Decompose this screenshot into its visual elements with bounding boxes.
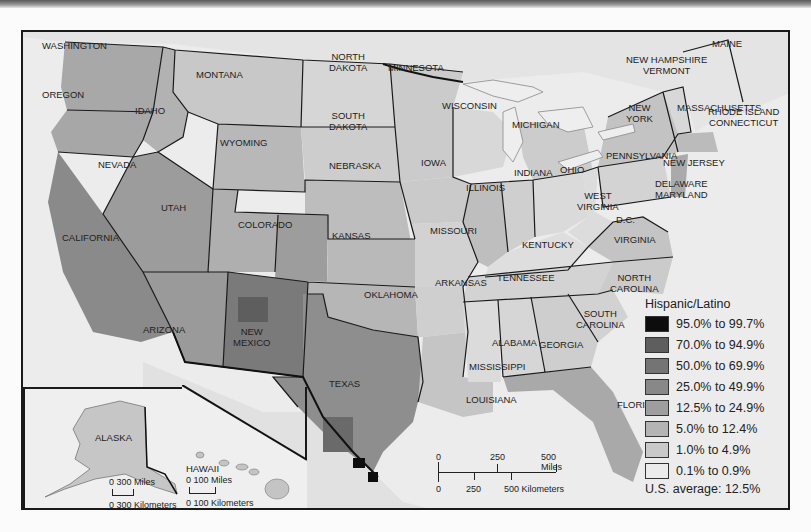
scale-tick <box>497 464 498 472</box>
state-label: ARIZONA <box>143 324 185 335</box>
state-label: NEW YORK <box>626 102 653 124</box>
state-label: SOUTH CAROLINA <box>576 308 625 330</box>
state-label: NORTH DAKOTA <box>329 51 367 73</box>
state-label: OKLAHOMA <box>364 289 418 300</box>
state-label: D.C. <box>616 214 635 225</box>
legend-label: 5.0% to 12.4% <box>676 422 757 436</box>
hawaii-scale-miles: 0 100 Miles <box>186 475 232 485</box>
state-label: DELAWARE MARYLAND <box>655 178 708 200</box>
state-label: CALIFORNIA <box>62 232 119 243</box>
scale-miles-250: 250 <box>490 452 505 462</box>
legend-label: 95.0% to 99.7% <box>676 317 764 331</box>
scale-km-250: 250 <box>466 484 481 494</box>
legend-title: Hispanic/Latino <box>645 297 790 311</box>
scale-bar: 0 250 500 Miles 0 250 500 Kilometers <box>436 452 566 502</box>
legend-swatch <box>645 463 669 479</box>
state-label: NEW MEXICO <box>233 326 270 348</box>
state-label: MISSOURI <box>430 225 477 236</box>
legend-swatch <box>645 337 669 353</box>
state-label: TENNESSEE <box>497 272 555 283</box>
scale-km-500: 500 Kilometers <box>504 484 564 494</box>
state-label: SOUTH DAKOTA <box>329 110 367 132</box>
scale-miles-0: 0 <box>436 452 441 462</box>
state-label: ARKANSAS <box>435 277 487 288</box>
legend-label: 12.5% to 24.9% <box>676 401 764 415</box>
state-label: ALABAMA <box>492 337 537 348</box>
legend-label: 0.1% to 0.9% <box>676 464 750 478</box>
state-washington <box>61 42 163 112</box>
state-label: UTAH <box>161 202 186 213</box>
state-label: OHIO <box>560 164 584 175</box>
state-label: WEST VIRGINIA <box>577 190 619 212</box>
legend-label: 70.0% to 94.9% <box>676 338 764 352</box>
legend-item: 5.0% to 12.4% <box>645 418 790 439</box>
state-label: COLORADO <box>238 219 292 230</box>
state-label: IOWA <box>421 157 446 168</box>
legend-label: 50.0% to 69.9% <box>676 359 764 373</box>
legend-swatch <box>645 442 669 458</box>
alaska-scale-km: 0 300 Kilometers <box>109 500 177 510</box>
hawaii-scale-bar <box>189 487 216 494</box>
state-label: GEORGIA <box>539 339 583 350</box>
hawaii-inset: HAWAII 0 100 Miles 0 100 Kilometers <box>182 387 307 510</box>
scale-tick <box>438 462 439 482</box>
state-label: MONTANA <box>196 69 243 80</box>
state-label: NORTH CAROLINA <box>610 272 659 294</box>
scale-tick <box>511 472 512 480</box>
state-label: NEVADA <box>98 159 136 170</box>
hawaii-scale-km: 0 100 Kilometers <box>186 498 254 508</box>
alaska-shape <box>25 389 182 508</box>
legend-swatch <box>645 379 669 395</box>
scale-line <box>438 472 556 473</box>
legend-item: 25.0% to 49.9% <box>645 376 790 397</box>
state-label: NEW HAMPSHIRE VERMONT <box>626 54 707 76</box>
scale-miles-500: 500 Miles <box>541 452 566 472</box>
scale-tick <box>556 464 557 472</box>
legend-swatch <box>645 400 669 416</box>
legend-item: 70.0% to 94.9% <box>645 334 790 355</box>
state-label: MISSISSIPPI <box>469 361 526 372</box>
state-label: LOUISIANA <box>466 394 517 405</box>
state-label: INDIANA <box>514 167 553 178</box>
legend-swatch <box>645 358 669 374</box>
state-iowa <box>400 177 471 224</box>
legend-swatch <box>645 316 669 332</box>
state-label: NEBRASKA <box>329 160 381 171</box>
state-label: MAINE <box>712 38 742 49</box>
map-frame: WASHINGTONOREGONIDAHOMONTANAWYOMINGNORTH… <box>21 30 790 510</box>
top-shadow-band <box>0 0 811 8</box>
legend-label: 25.0% to 49.9% <box>676 380 764 394</box>
alaska-inset: ALASKA 0 300 Miles 0 300 Kilometers <box>23 387 184 510</box>
state-label: OREGON <box>42 89 84 100</box>
legend-item: 50.0% to 69.9% <box>645 355 790 376</box>
legend-us-average: U.S. average: 12.5% <box>645 482 790 496</box>
state-label: VIRGINIA <box>614 234 656 245</box>
scale-tick <box>474 472 475 480</box>
state-label: MINNESOTA <box>388 62 444 73</box>
legend-label: 1.0% to 4.9% <box>676 443 750 457</box>
hawaii-label: HAWAII <box>186 463 219 474</box>
legend-swatch <box>645 421 669 437</box>
state-label: WYOMING <box>220 137 268 148</box>
state-label: MICHIGAN <box>512 119 560 130</box>
alaska-scale-bar <box>112 489 134 496</box>
state-label: KANSAS <box>332 230 371 241</box>
state-label: WASHINGTON <box>42 40 107 51</box>
state-kansas <box>327 239 415 287</box>
state-label: KENTUCKY <box>522 239 574 250</box>
legend-item: 0.1% to 0.9% <box>645 460 790 481</box>
state-label: WISCONSIN <box>442 100 497 111</box>
legend-item: 12.5% to 24.9% <box>645 397 790 418</box>
alaska-label: ALASKA <box>95 432 132 443</box>
state-new-mexico <box>223 272 308 377</box>
legend-item: 95.0% to 99.7% <box>645 313 790 334</box>
state-label: RHODE ISLAND CONNECTICUT <box>708 106 779 128</box>
state-label: IDAHO <box>135 105 165 116</box>
state-label: TEXAS <box>329 378 360 389</box>
legend: Hispanic/Latino 95.0% to 99.7%70.0% to 9… <box>645 297 790 496</box>
alaska-scale-miles: 0 300 Miles <box>109 477 155 487</box>
state-massachusetts <box>678 132 718 152</box>
state-label: ILLINOIS <box>466 182 505 193</box>
scale-km-0: 0 <box>436 484 441 494</box>
state-arkansas <box>415 287 468 337</box>
